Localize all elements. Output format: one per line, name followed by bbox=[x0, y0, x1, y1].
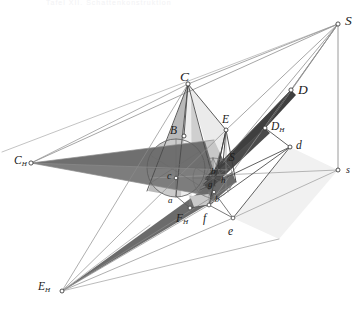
point-label-DH: DH bbox=[271, 121, 284, 133]
node-EH bbox=[60, 289, 64, 293]
point-label-c: c bbox=[167, 171, 171, 181]
geometry-plate: Tafel XII. Schattenkonstruktion bbox=[0, 0, 364, 318]
point-label-S: S bbox=[345, 14, 352, 28]
point-label-d: d bbox=[296, 140, 302, 152]
node-b-small bbox=[212, 190, 215, 193]
point-label-C: C bbox=[180, 70, 189, 84]
node-S bbox=[336, 22, 340, 26]
point-label-e: e bbox=[228, 226, 233, 238]
node-d bbox=[288, 145, 292, 149]
point-label-bs: b bbox=[215, 196, 219, 204]
ground-strokes-bottom bbox=[62, 225, 279, 291]
point-label-subscript-FH: H bbox=[183, 218, 188, 226]
point-label-EH: EH bbox=[38, 281, 50, 293]
point-label-f: f bbox=[203, 213, 206, 225]
node-CH bbox=[29, 161, 33, 165]
ground-quad-right bbox=[233, 147, 338, 239]
point-label-subscript-EH: H bbox=[45, 286, 50, 294]
point-label-am: a bbox=[168, 196, 173, 205]
node-s bbox=[336, 168, 340, 172]
point-label-Sm: S bbox=[229, 152, 235, 164]
point-label-s: s bbox=[346, 165, 350, 175]
node-f bbox=[207, 203, 211, 207]
point-label-FH: FH bbox=[176, 213, 188, 225]
point-label-hm: h bbox=[221, 176, 226, 185]
node-B bbox=[182, 134, 186, 138]
point-label-E: E bbox=[222, 114, 229, 126]
node-e bbox=[231, 216, 235, 220]
point-label-gm: g bbox=[208, 180, 213, 189]
point-label-CH: CH bbox=[14, 155, 27, 167]
point-label-B: B bbox=[170, 125, 177, 137]
point-label-D: D bbox=[298, 83, 308, 97]
point-label-subscript-CH: H bbox=[22, 160, 27, 168]
point-label-subscript-DH: H bbox=[279, 126, 284, 134]
diagram-canvas bbox=[0, 0, 364, 318]
node-c bbox=[174, 176, 178, 180]
node-DH bbox=[263, 126, 267, 130]
node-D bbox=[289, 88, 293, 92]
node-E bbox=[224, 128, 228, 132]
node-FH bbox=[188, 206, 192, 210]
point-label-bm: b bbox=[211, 167, 216, 176]
